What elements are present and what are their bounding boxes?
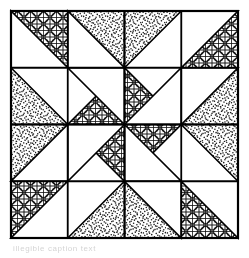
- pattern-canvas: [0, 0, 249, 258]
- quilt-block: [11, 11, 238, 238]
- quilt-block-figure: illegible caption text: [0, 0, 249, 258]
